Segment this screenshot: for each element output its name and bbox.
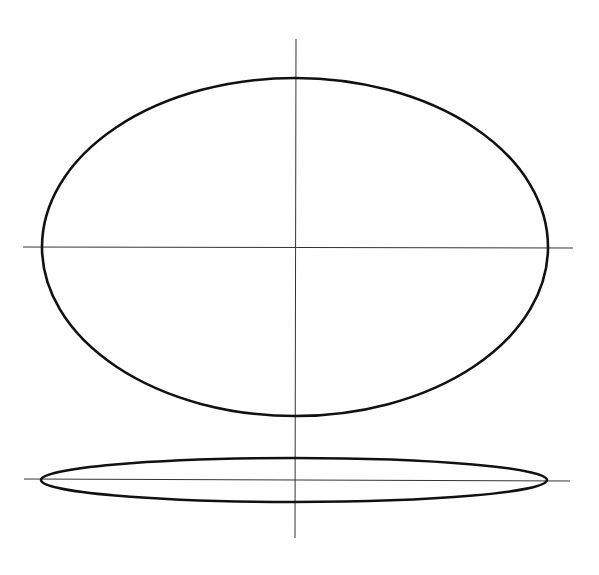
ellipse-projection-drawing xyxy=(0,0,599,575)
background xyxy=(0,0,599,575)
